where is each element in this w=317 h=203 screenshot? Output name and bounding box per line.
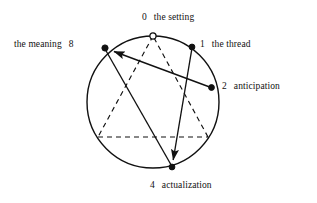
node-number-4: 4 — [150, 180, 155, 190]
node-number-8: 8 — [69, 39, 74, 49]
node-marker-4[interactable] — [169, 164, 175, 170]
node-name-2: anticipation — [234, 81, 280, 91]
node-marker-2[interactable] — [209, 85, 215, 91]
dashed-edge-top-right — [153, 36, 208, 137]
node-number-2: 2 — [222, 81, 227, 91]
node-name-8: the meaning — [14, 39, 62, 49]
node-label-1: 1the thread — [200, 39, 251, 50]
line-8-to-4 — [105, 49, 172, 167]
node-marker-1[interactable] — [189, 44, 195, 50]
solid-arrow-paths — [105, 48, 211, 167]
node-label-4: 4actualization — [150, 180, 212, 191]
arrow-1-to-4 — [173, 48, 192, 160]
figure-canvas: 0the setting 1the thread 2anticipation 4… — [0, 0, 317, 203]
node-label-0: 0the setting — [142, 12, 194, 23]
main-circle — [87, 36, 219, 168]
arrow-2-to-8 — [114, 52, 211, 88]
node-name-4: actualization — [162, 180, 212, 190]
node-number-0: 0 — [142, 12, 147, 22]
diagram-svg — [0, 0, 317, 203]
node-marker-0[interactable] — [150, 33, 156, 39]
node-name-1: the thread — [212, 39, 251, 49]
node-label-2: 2anticipation — [222, 81, 280, 92]
node-label-8: the meaning8 — [14, 39, 74, 50]
node-number-1: 1 — [200, 39, 205, 49]
node-marker-8[interactable] — [102, 45, 108, 51]
node-name-0: the setting — [154, 12, 194, 22]
